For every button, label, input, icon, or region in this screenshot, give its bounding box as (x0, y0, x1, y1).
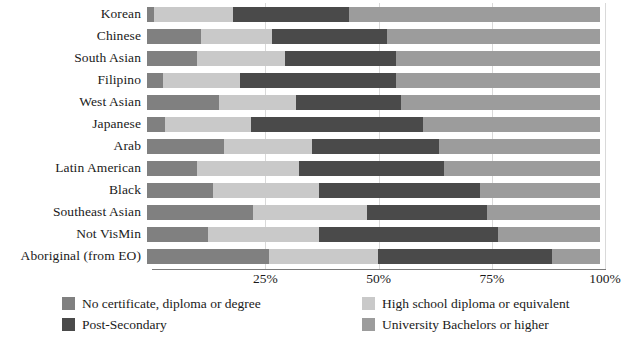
bar-segment (498, 227, 600, 242)
bar-segment (396, 73, 600, 88)
category-label: Chinese (0, 29, 147, 43)
bar-segment (147, 161, 197, 176)
bar-row: Filipino (0, 69, 626, 91)
category-label: South Asian (0, 51, 147, 65)
bar-track (147, 161, 600, 176)
bar-row: Latin American (0, 157, 626, 179)
bar-track (147, 183, 600, 198)
bar-segment (552, 249, 600, 264)
bar-segment (147, 227, 208, 242)
bar-segment (147, 249, 269, 264)
bar-row: Arab (0, 135, 626, 157)
bar-segment (312, 139, 439, 154)
category-label: Not VisMin (0, 227, 147, 241)
category-label: Japanese (0, 117, 147, 131)
legend-item[interactable]: No certificate, diploma or degree (62, 297, 362, 311)
category-label: Latin American (0, 161, 147, 175)
category-label: Southeast Asian (0, 205, 147, 219)
bar-segment (154, 7, 233, 22)
bar-segment (439, 139, 600, 154)
bar-segment (147, 7, 154, 22)
x-axis-tick-label: 100% (589, 271, 621, 287)
x-axis-tick-labels: 25%50%75%100% (0, 271, 626, 291)
bar-row: Aboriginal (from EO) (0, 245, 626, 267)
bar-segment (319, 183, 480, 198)
bar-segment (147, 205, 253, 220)
legend-swatch-icon (62, 318, 75, 331)
category-label: Filipino (0, 73, 147, 87)
bar-track (147, 51, 600, 66)
bar-segment (219, 95, 296, 110)
legend-item[interactable]: Post-Secondary (62, 318, 362, 332)
legend-swatch-icon (362, 297, 375, 310)
legend-label: High school diploma or equivalent (382, 297, 569, 311)
bar-segment (197, 51, 285, 66)
bar-segment (396, 51, 600, 66)
bar-segment (213, 183, 319, 198)
bar-row: South Asian (0, 47, 626, 69)
legend-label: University Bachelors or higher (382, 318, 549, 332)
bar-track (147, 249, 600, 264)
bar-row: Black (0, 179, 626, 201)
bar-track (147, 205, 600, 220)
bar-segment (299, 161, 444, 176)
bar-segment (272, 29, 388, 44)
bar-segment (147, 73, 163, 88)
bar-segment (401, 95, 600, 110)
bar-segment (147, 139, 224, 154)
bar-segment (378, 249, 552, 264)
bar-segment (319, 227, 498, 242)
stacked-bar-chart: KoreanChineseSouth AsianFilipinoWest Asi… (0, 0, 626, 342)
bar-row: Japanese (0, 113, 626, 135)
bar-segment (147, 117, 165, 132)
bar-track (147, 139, 600, 154)
bar-segment (165, 117, 251, 132)
bar-segment (285, 51, 396, 66)
bar-segment (444, 161, 600, 176)
bar-segment (349, 7, 600, 22)
bar-segment (233, 7, 349, 22)
category-label: Arab (0, 139, 147, 153)
bar-segment (487, 205, 600, 220)
plot-area: KoreanChineseSouth AsianFilipinoWest Asi… (0, 0, 626, 272)
bar-segment (208, 227, 319, 242)
bar-segment (197, 161, 299, 176)
x-axis-tick-label: 25% (253, 271, 278, 287)
bar-track (147, 29, 600, 44)
bar-segment (296, 95, 400, 110)
legend-label: No certificate, diploma or degree (82, 297, 261, 311)
bar-segment (163, 73, 240, 88)
legend-label: Post-Secondary (82, 318, 167, 332)
bar-segment (480, 183, 600, 198)
bar-row: Not VisMin (0, 223, 626, 245)
bar-segment (251, 117, 423, 132)
bar-segment (253, 205, 366, 220)
x-axis-tick-label: 50% (366, 271, 391, 287)
legend-swatch-icon (362, 318, 375, 331)
bar-row: Southeast Asian (0, 201, 626, 223)
category-label: Aboriginal (from EO) (0, 249, 147, 263)
bar-segment (147, 29, 201, 44)
bar-segment (201, 29, 271, 44)
legend-swatch-icon (62, 297, 75, 310)
x-axis-tick-label: 75% (479, 271, 504, 287)
category-label: Korean (0, 7, 147, 21)
bar-track (147, 117, 600, 132)
bar-row: Chinese (0, 25, 626, 47)
bar-segment (147, 51, 197, 66)
bar-segment (423, 117, 600, 132)
bar-segment (224, 139, 312, 154)
legend-item[interactable]: University Bachelors or higher (362, 318, 602, 332)
bar-segment (147, 183, 213, 198)
bar-row: West Asian (0, 91, 626, 113)
bar-segment (367, 205, 487, 220)
bar-track (147, 73, 600, 88)
bar-segment (147, 95, 219, 110)
bar-track (147, 95, 600, 110)
bar-segment (240, 73, 396, 88)
bar-track (147, 227, 600, 242)
bar-segment (269, 249, 378, 264)
chart-legend: No certificate, diploma or degreeHigh sc… (62, 293, 602, 335)
legend-item[interactable]: High school diploma or equivalent (362, 297, 602, 311)
category-label: Black (0, 183, 147, 197)
